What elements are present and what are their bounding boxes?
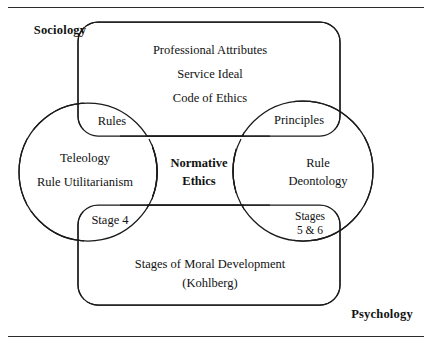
label-professional-attributes: Professional Attributes	[153, 43, 267, 58]
label-rule-utilitarianism: Rule Utilitarianism	[37, 175, 133, 190]
label-sociology: Sociology	[34, 23, 87, 38]
label-ethics: Ethics	[182, 174, 215, 189]
label-kohlberg: (Kohlberg)	[182, 276, 237, 291]
label-stages-of-moral-development: Stages of Moral Development	[135, 257, 285, 272]
label-deontology: Deontology	[288, 174, 347, 189]
label-rules: Rules	[98, 114, 126, 129]
label-stages-5-6-line1: Stages	[295, 210, 325, 224]
label-rule: Rule	[306, 156, 330, 171]
label-psychology: Psychology	[351, 307, 413, 322]
label-principles: Principles	[274, 113, 324, 128]
label-stages-5-6-line2: 5 & 6	[297, 224, 323, 238]
label-teleology: Teleology	[60, 151, 110, 166]
figure-root: Sociology Psychology Professional Attrib…	[0, 0, 432, 346]
label-code-of-ethics: Code of Ethics	[173, 91, 247, 106]
label-stage-4: Stage 4	[91, 213, 128, 228]
label-service-ideal: Service Ideal	[177, 67, 243, 82]
label-normative: Normative	[171, 156, 228, 171]
